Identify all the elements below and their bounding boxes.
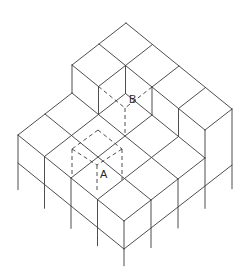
cube-edge	[98, 137, 179, 200]
cube-edge	[152, 66, 179, 87]
cube-edge	[99, 44, 126, 66]
hidden-edge	[97, 149, 122, 165]
cube-edge	[179, 88, 206, 109]
hidden-edge	[98, 130, 122, 149]
cube-edge	[45, 94, 126, 157]
label-a: A	[100, 168, 108, 180]
cube-edge	[126, 66, 206, 131]
hidden-edge	[72, 149, 97, 165]
cube-edge	[205, 109, 232, 130]
cube-edge	[72, 65, 99, 87]
cube-edge	[126, 94, 206, 159]
cube-edge	[45, 114, 151, 200]
label-b: B	[129, 93, 136, 105]
cube-edge	[72, 93, 178, 179]
cube-edge	[71, 115, 152, 178]
cube-structure-edges	[18, 23, 232, 266]
diagram-canvas: B A	[0, 0, 246, 277]
isometric-cube-diagram: B A	[0, 0, 246, 277]
hidden-cube-a-outline	[72, 130, 122, 191]
cube-edge	[124, 158, 205, 221]
